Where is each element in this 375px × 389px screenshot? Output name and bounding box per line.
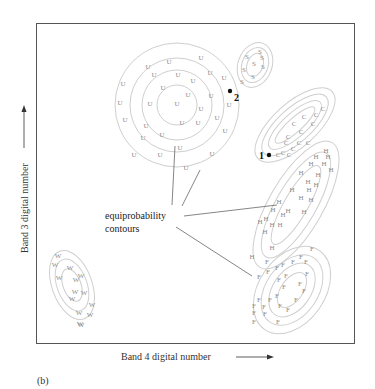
point-w: W bbox=[81, 289, 88, 297]
point-h: H bbox=[305, 178, 310, 186]
point-f: F bbox=[252, 318, 256, 326]
point-h: H bbox=[289, 186, 294, 194]
point-f: F bbox=[282, 283, 286, 291]
point-u: U bbox=[160, 84, 165, 92]
point-h: H bbox=[269, 244, 274, 252]
point-c: C bbox=[281, 149, 286, 157]
point-u: U bbox=[222, 127, 227, 135]
y-axis-label: Band 3 digital number bbox=[19, 163, 30, 253]
point-c: C bbox=[284, 139, 289, 147]
annotation-line-2: contours bbox=[105, 223, 140, 234]
point-u: U bbox=[174, 100, 179, 108]
point-u: U bbox=[177, 144, 182, 152]
points-layer: UUUUUUUUUUUUUUUUUUUUUUUUUUUUUUSSSSSSSSCC… bbox=[52, 48, 334, 329]
point-w: W bbox=[78, 321, 85, 329]
point-c: C bbox=[287, 151, 292, 159]
point-f: F bbox=[278, 302, 282, 310]
point-h: H bbox=[315, 171, 320, 179]
point-c: C bbox=[302, 113, 307, 121]
point-w: W bbox=[56, 274, 63, 282]
point-f: F bbox=[277, 276, 281, 284]
point-w: W bbox=[67, 264, 74, 272]
point-h: H bbox=[321, 160, 326, 168]
point-h: H bbox=[306, 186, 311, 194]
point-f: F bbox=[302, 287, 306, 295]
point-h: H bbox=[269, 221, 274, 229]
point-u: U bbox=[122, 116, 127, 124]
point-u: U bbox=[179, 119, 184, 127]
point-u: U bbox=[221, 74, 226, 82]
point-w: W bbox=[73, 276, 80, 284]
point-h: H bbox=[308, 196, 313, 204]
leader-line-u-outer bbox=[182, 170, 200, 206]
point-u: U bbox=[195, 119, 200, 127]
leader-line-u-inner bbox=[172, 146, 175, 205]
point-f: F bbox=[304, 258, 308, 266]
point-f: F bbox=[268, 296, 272, 304]
point-f: F bbox=[252, 309, 256, 317]
point-w: W bbox=[89, 301, 96, 309]
point-f: F bbox=[275, 292, 279, 300]
point-h: H bbox=[313, 181, 318, 189]
point-u: U bbox=[151, 71, 156, 79]
point-w: W bbox=[55, 252, 62, 260]
point-u: U bbox=[157, 151, 162, 159]
x-axis-arrow-icon bbox=[267, 355, 274, 360]
point-f: F bbox=[257, 273, 261, 281]
point-f: F bbox=[294, 296, 298, 304]
point-u: U bbox=[198, 54, 203, 62]
point-w: W bbox=[76, 309, 83, 317]
point-f: F bbox=[299, 253, 303, 261]
point-f: F bbox=[284, 272, 288, 280]
point-u: U bbox=[208, 92, 213, 100]
point-f: F bbox=[263, 310, 267, 318]
panel-label: (b) bbox=[37, 375, 49, 387]
point-u: U bbox=[117, 99, 122, 107]
point-h: H bbox=[270, 206, 275, 214]
point-f: F bbox=[266, 268, 270, 276]
point-c: C bbox=[299, 128, 304, 136]
point-u: U bbox=[226, 101, 231, 109]
x-axis-label: Band 4 digital number bbox=[121, 351, 211, 362]
contour-w-3 bbox=[41, 244, 103, 325]
point-u: U bbox=[147, 100, 152, 108]
point-u: U bbox=[140, 134, 145, 142]
point-s: S bbox=[240, 78, 244, 86]
point-u: U bbox=[190, 77, 195, 85]
point-h: H bbox=[298, 169, 303, 177]
point-h: H bbox=[262, 228, 267, 236]
marker-2-dot bbox=[228, 89, 232, 93]
point-s: S bbox=[242, 66, 246, 74]
point-c: C bbox=[292, 120, 297, 128]
point-h: H bbox=[308, 160, 313, 168]
point-w: W bbox=[69, 295, 76, 303]
point-c: C bbox=[311, 120, 316, 128]
annotation-line-1: equiprobability bbox=[105, 210, 166, 221]
point-u: U bbox=[131, 151, 136, 159]
marker-2-label: 2 bbox=[234, 92, 239, 103]
point-u: U bbox=[198, 105, 203, 113]
point-c: C bbox=[314, 111, 319, 119]
point-u: U bbox=[175, 71, 180, 79]
point-u: U bbox=[207, 69, 212, 77]
point-c: C bbox=[297, 139, 302, 147]
marker-1-label: 1 bbox=[259, 150, 264, 161]
point-f: F bbox=[275, 264, 279, 272]
point-f: F bbox=[265, 258, 269, 266]
point-h: H bbox=[313, 153, 318, 161]
classification-diagram: UUUUUUUUUUUUUUUUUUUUUUUUUUUUUUSSSSSSSSCC… bbox=[0, 0, 375, 389]
point-s: S bbox=[252, 60, 256, 68]
point-c: C bbox=[276, 151, 281, 159]
point-h: H bbox=[249, 253, 254, 261]
point-u: U bbox=[145, 63, 150, 71]
point-u: U bbox=[185, 91, 190, 99]
point-f: F bbox=[257, 296, 261, 304]
point-f: F bbox=[305, 270, 309, 278]
point-u: U bbox=[209, 150, 214, 158]
point-h: H bbox=[257, 218, 262, 226]
point-f: F bbox=[291, 258, 295, 266]
y-axis-arrow-icon bbox=[22, 105, 27, 112]
point-s: S bbox=[260, 54, 264, 62]
point-f: F bbox=[310, 245, 314, 253]
point-s: S bbox=[251, 73, 255, 81]
